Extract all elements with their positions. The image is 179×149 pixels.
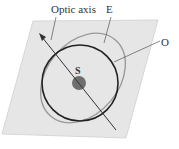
o-label: O <box>161 36 169 48</box>
s-label: S <box>75 65 81 76</box>
optic-axis-label: Optic axis <box>51 3 96 15</box>
wavefront-diagram: Optic axis E O S <box>0 0 179 149</box>
diagram-canvas: Optic axis E O S <box>0 0 179 149</box>
e-label: E <box>106 3 113 15</box>
